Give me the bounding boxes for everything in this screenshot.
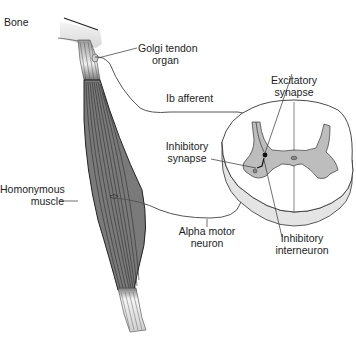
homonymous-muscle — [84, 80, 146, 290]
label-golgi-tendon-organ: Golgi tendon organ — [138, 42, 198, 66]
label-alpha-motor-neuron: Alpha motor neuron — [174, 225, 240, 249]
excitatory-synapse-dot — [263, 153, 268, 158]
label-inhibitory-synapse: Inhibitory synapse — [160, 140, 214, 164]
golgi-tendon-organ — [92, 54, 98, 62]
diagram-canvas: Bone Golgi tendon organ Ib afferent Exci… — [0, 0, 356, 341]
label-inhibitory-interneuron: Inhibitory interneuron — [270, 232, 334, 256]
label-homonymous-muscle: Homonymous muscle — [0, 183, 64, 207]
bottom-tendon — [118, 288, 146, 332]
label-bone: Bone — [4, 16, 29, 28]
spinal-cord-section — [222, 100, 353, 226]
label-excitatory-synapse: Excitatory synapse — [262, 74, 326, 98]
label-ib-afferent: Ib afferent — [166, 92, 213, 104]
